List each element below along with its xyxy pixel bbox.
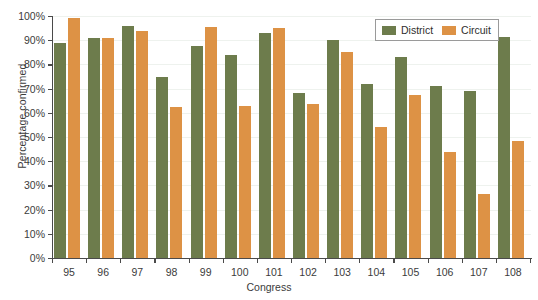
bar-group: [258, 16, 292, 258]
legend-label-circuit: Circuit: [461, 24, 491, 36]
bar-circuit-99: [205, 27, 217, 258]
bar-district-106: [430, 86, 442, 258]
bar-group: [360, 16, 394, 258]
x-axis-tick: [52, 258, 53, 263]
bar-district-99: [191, 46, 203, 258]
bar-district-103: [327, 40, 339, 258]
bar-circuit-96: [102, 38, 114, 258]
circuit-swatch-icon: [442, 26, 456, 35]
bar-district-97: [122, 26, 134, 258]
x-axis-tick: [189, 258, 190, 263]
bar-circuit-97: [136, 31, 148, 258]
y-axis-tick-label: 50%: [24, 131, 45, 143]
plot-area: 0%10%20%30%40%50%60%70%80%90%100%: [52, 16, 531, 258]
x-axis-tick: [428, 258, 429, 263]
bar-district-104: [361, 84, 373, 258]
y-axis-tick-label: 80%: [24, 58, 45, 70]
x-axis-tick: [325, 258, 326, 263]
bar-district-95: [54, 43, 66, 258]
bar-group: [87, 16, 121, 258]
x-axis-tick: [120, 258, 121, 263]
bar-circuit-95: [68, 18, 80, 258]
bar-district-105: [395, 57, 407, 258]
bar-district-96: [88, 38, 100, 258]
bar-circuit-104: [375, 127, 387, 258]
bar-group: [429, 16, 463, 258]
bar-circuit-103: [341, 52, 353, 258]
bar-circuit-102: [307, 104, 319, 258]
bar-circuit-100: [239, 106, 251, 258]
bar-circuit-98: [170, 107, 182, 258]
x-axis-tick: [291, 258, 292, 263]
x-axis-tick: [530, 258, 531, 263]
y-axis-tick-label: 70%: [24, 83, 45, 95]
bar-group: [292, 16, 326, 258]
bar-circuit-101: [273, 28, 285, 258]
x-axis-tick: [496, 258, 497, 263]
bar-group: [224, 16, 258, 258]
x-axis-tick: [223, 258, 224, 263]
bar-chart: Percentage confirmed 0%10%20%30%40%50%60…: [0, 0, 538, 300]
y-axis-tick-label: 90%: [24, 34, 45, 46]
legend-entry-district: District: [382, 24, 433, 36]
y-axis-tick-label: 30%: [24, 179, 45, 191]
district-swatch-icon: [382, 26, 396, 35]
bar-district-108: [498, 37, 510, 258]
bar-group: [53, 16, 87, 258]
x-axis-tick: [86, 258, 87, 263]
bar-circuit-105: [409, 95, 421, 258]
bar-district-102: [293, 93, 305, 258]
y-axis-tick-label: 40%: [24, 155, 45, 167]
bar-circuit-107: [478, 194, 490, 258]
y-axis-tick-label: 60%: [24, 107, 45, 119]
bar-group: [155, 16, 189, 258]
bar-group: [121, 16, 155, 258]
bar-district-98: [156, 77, 168, 259]
bar-circuit-106: [444, 152, 456, 258]
y-axis-tick-label: 10%: [24, 228, 45, 240]
x-axis-tick: [154, 258, 155, 263]
chart-legend: District Circuit: [375, 19, 499, 41]
x-axis-tick: [359, 258, 360, 263]
y-axis-tick-label: 20%: [24, 204, 45, 216]
bar-district-101: [259, 33, 271, 258]
y-axis-tick-label: 0%: [30, 252, 45, 264]
bar-group: [497, 16, 531, 258]
x-axis-tick-label: 108: [493, 266, 533, 278]
legend-entry-circuit: Circuit: [442, 24, 491, 36]
bar-group: [394, 16, 428, 258]
bar-group: [190, 16, 224, 258]
bar-group: [326, 16, 360, 258]
bar-group: [463, 16, 497, 258]
bar-district-100: [225, 55, 237, 258]
bar-district-107: [464, 91, 476, 258]
x-axis-tick: [462, 258, 463, 263]
bar-circuit-108: [512, 141, 524, 258]
y-axis-tick-label: 100%: [18, 10, 45, 22]
x-axis-tick: [393, 258, 394, 263]
x-axis-title: Congress: [0, 281, 538, 293]
x-axis-tick: [257, 258, 258, 263]
legend-label-district: District: [401, 24, 433, 36]
